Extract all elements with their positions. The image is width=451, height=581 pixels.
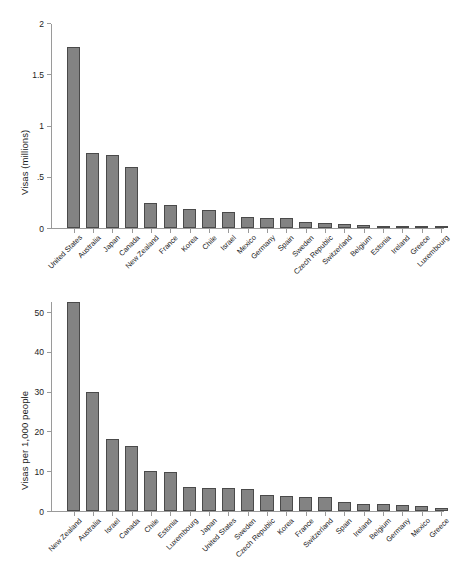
y-tick: 30 bbox=[47, 392, 51, 393]
x-tick bbox=[112, 229, 113, 233]
y-tick-label: 1.5 bbox=[32, 70, 44, 80]
bar bbox=[260, 218, 273, 228]
x-tick bbox=[286, 229, 287, 233]
x-tick bbox=[74, 229, 75, 233]
bar bbox=[202, 210, 215, 228]
x-tick bbox=[132, 229, 133, 233]
x-tick bbox=[383, 512, 384, 516]
x-tick bbox=[248, 229, 249, 233]
bar bbox=[164, 205, 177, 228]
y-tick-label: 20 bbox=[35, 427, 44, 437]
x-tick bbox=[402, 512, 403, 516]
x-tick bbox=[364, 229, 365, 233]
x-tick bbox=[267, 512, 268, 516]
y-tick-label: 0 bbox=[39, 507, 44, 517]
x-tick bbox=[190, 229, 191, 233]
y-tick: 10 bbox=[47, 471, 51, 472]
x-axis-category-label: Korea bbox=[276, 517, 295, 536]
x-axis-category-label: Ireland bbox=[390, 234, 412, 256]
y-axis-title-bottom: Visas per 1,000 people bbox=[19, 391, 30, 490]
bar bbox=[183, 487, 196, 511]
bar bbox=[299, 222, 312, 228]
bar bbox=[67, 47, 80, 228]
x-tick bbox=[325, 512, 326, 516]
x-axis-category-label: France bbox=[158, 234, 180, 256]
bar bbox=[86, 153, 99, 228]
bar bbox=[222, 212, 235, 228]
bar bbox=[396, 505, 409, 511]
bar-series-bottom bbox=[52, 302, 440, 511]
bar bbox=[435, 508, 448, 511]
bar bbox=[357, 225, 370, 228]
y-tick-label: 40 bbox=[35, 347, 44, 357]
x-axis-category-label: Estonia bbox=[369, 234, 392, 257]
y-tick-label: 2 bbox=[39, 19, 44, 29]
bar bbox=[357, 504, 370, 511]
x-tick bbox=[93, 512, 94, 516]
bar bbox=[299, 497, 312, 511]
bar bbox=[318, 497, 331, 511]
x-tick bbox=[170, 229, 171, 233]
y-tick: 20 bbox=[47, 431, 51, 432]
x-tick bbox=[132, 512, 133, 516]
y-tick: 0 bbox=[47, 228, 51, 229]
bar bbox=[280, 496, 293, 512]
bar bbox=[280, 218, 293, 228]
x-tick bbox=[422, 229, 423, 233]
x-tick bbox=[228, 229, 229, 233]
x-tick bbox=[209, 512, 210, 516]
y-tick: .5 bbox=[47, 177, 51, 178]
x-tick bbox=[422, 512, 423, 516]
x-axis-category-label: Chile bbox=[201, 234, 218, 251]
bar bbox=[125, 446, 138, 511]
bar bbox=[144, 203, 157, 228]
y-tick: 1 bbox=[47, 126, 51, 127]
x-tick bbox=[248, 512, 249, 516]
x-tick bbox=[364, 512, 365, 516]
plot-area-bottom: 01020304050 bbox=[51, 302, 440, 512]
x-tick bbox=[306, 512, 307, 516]
bar bbox=[338, 224, 351, 228]
bar bbox=[260, 495, 273, 511]
bar bbox=[415, 506, 428, 511]
y-tick-label: 30 bbox=[35, 387, 44, 397]
bar bbox=[183, 209, 196, 228]
x-tick bbox=[93, 229, 94, 233]
y-tick-label: 50 bbox=[35, 308, 44, 318]
x-axis-category-label: Mexico bbox=[410, 517, 432, 539]
y-axis-title-top: Visas (millions) bbox=[19, 130, 30, 195]
bar bbox=[338, 502, 351, 511]
x-tick bbox=[170, 512, 171, 516]
bar bbox=[164, 472, 177, 511]
x-tick bbox=[402, 229, 403, 233]
x-tick bbox=[74, 512, 75, 516]
chart-panel-bottom: Visas per 1,000 people 01020304050 New Z… bbox=[0, 290, 446, 581]
bar bbox=[106, 439, 119, 511]
bar bbox=[106, 155, 119, 228]
x-tick bbox=[441, 229, 442, 233]
y-tick: 50 bbox=[47, 312, 51, 313]
x-tick bbox=[286, 512, 287, 516]
x-axis-category-label: Greece bbox=[428, 517, 450, 539]
chart-panel-top: Visas (millions) 0.511.52 United StatesA… bbox=[0, 0, 446, 290]
bar bbox=[377, 504, 390, 511]
y-tick-label: 0 bbox=[39, 224, 44, 234]
x-tick bbox=[190, 512, 191, 516]
bar bbox=[67, 302, 80, 511]
bar-series-top bbox=[52, 24, 440, 228]
x-tick bbox=[151, 512, 152, 516]
bar bbox=[396, 226, 409, 228]
x-tick bbox=[344, 512, 345, 516]
y-tick: 1.5 bbox=[47, 74, 51, 75]
x-tick bbox=[112, 512, 113, 516]
bar bbox=[435, 226, 448, 228]
x-tick bbox=[228, 512, 229, 516]
bar bbox=[144, 471, 157, 511]
x-axis-category-label: Korea bbox=[179, 234, 198, 253]
bar bbox=[222, 488, 235, 511]
y-tick: 40 bbox=[47, 352, 51, 353]
x-tick bbox=[151, 229, 152, 233]
x-axis-category-label: Canada bbox=[117, 517, 141, 541]
x-tick bbox=[344, 229, 345, 233]
